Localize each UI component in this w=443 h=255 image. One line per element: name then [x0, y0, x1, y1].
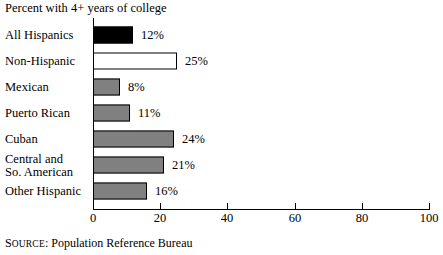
x-axis-tick: [362, 203, 363, 210]
bar: [93, 105, 130, 122]
x-axis-tick-label: 80: [356, 211, 369, 225]
plot-area: All Hispanics12%Non-Hispanic25%Mexican8%…: [0, 18, 443, 210]
bar-row: Other Hispanic16%: [0, 178, 443, 204]
bar-row: Central andSo. American21%: [0, 152, 443, 178]
x-axis-tick: [295, 203, 296, 210]
x-axis-tick: [160, 203, 161, 210]
bar: [93, 27, 133, 44]
source-caption: SOURCE: Population Reference Bureau: [5, 236, 193, 251]
category-label: All Hispanics: [5, 29, 73, 42]
category-label: Puerto Rican: [5, 107, 70, 120]
bar-value-label: 16%: [155, 185, 178, 198]
category-label: Mexican: [5, 81, 49, 94]
x-axis-tick-label: 40: [221, 211, 234, 225]
x-axis-tick-label: 60: [289, 211, 302, 225]
category-label-line1: Central and: [5, 153, 73, 166]
x-axis-tick-label: 20: [154, 211, 167, 225]
bar: [93, 53, 177, 70]
bar-value-label: 24%: [182, 133, 205, 146]
bar: [93, 183, 147, 200]
x-axis-tick: [227, 203, 228, 210]
bar-row: All Hispanics12%: [0, 22, 443, 48]
x-axis-tick: [429, 203, 430, 210]
source-prefix-first: S: [5, 236, 12, 250]
source-prefix-rest: OURCE: [12, 239, 45, 249]
bar-row: Non-Hispanic25%: [0, 48, 443, 74]
bar: [93, 157, 164, 174]
bar-value-label: 12%: [141, 29, 164, 42]
y-axis-line: [93, 18, 94, 210]
x-axis-tick-label: 100: [420, 211, 439, 225]
bar: [93, 79, 120, 96]
category-label: Cuban: [5, 133, 38, 146]
bar-row: Mexican8%: [0, 74, 443, 100]
x-axis-tick-label: 0: [90, 211, 96, 225]
category-label: Non-Hispanic: [5, 55, 75, 68]
x-axis-tick: [93, 203, 94, 210]
chart-figure: Percent with 4+ years of college All His…: [0, 0, 443, 255]
category-label-line2: So. American: [5, 165, 73, 178]
source-publisher: Population Reference Bureau: [51, 236, 192, 250]
bar-value-label: 21%: [172, 159, 195, 172]
category-label: Other Hispanic: [5, 185, 81, 198]
bar-value-label: 11%: [138, 107, 160, 120]
bar-value-label: 25%: [185, 55, 208, 68]
chart-title: Percent with 4+ years of college: [5, 1, 167, 15]
bar-row: Puerto Rican11%: [0, 100, 443, 126]
category-label: Central andSo. American: [5, 153, 73, 178]
bar-row: Cuban24%: [0, 126, 443, 152]
bar: [93, 131, 174, 148]
x-axis-line: [93, 209, 429, 210]
bar-value-label: 8%: [128, 81, 145, 94]
